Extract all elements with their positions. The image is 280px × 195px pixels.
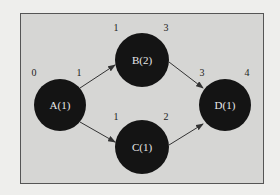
node-c-start: 1: [114, 111, 119, 122]
node-d-start: 3: [200, 67, 205, 78]
node-a-label: A(1): [50, 99, 71, 112]
edge-c-d: [169, 124, 203, 145]
node-d: D(1) 3 4: [199, 67, 251, 131]
node-a-start: 0: [32, 67, 37, 78]
network-diagram: A(1) 0 1 B(2) 1 3 C(1) 1 2 D(1) 3 4: [0, 0, 280, 195]
edge-b-d: [169, 62, 203, 88]
node-b-finish: 3: [164, 22, 169, 33]
edge-a-b: [80, 65, 115, 88]
edge-a-c: [80, 122, 115, 142]
node-b-start: 1: [114, 22, 119, 33]
node-b: B(2) 1 3: [114, 22, 170, 87]
node-c: C(1) 1 2: [114, 111, 170, 174]
node-c-finish: 2: [164, 111, 169, 122]
node-d-finish: 4: [245, 67, 250, 78]
node-c-label: C(1): [132, 141, 153, 154]
node-a-finish: 1: [77, 67, 82, 78]
node-b-label: B(2): [132, 54, 153, 67]
node-d-label: D(1): [215, 99, 236, 112]
node-a: A(1) 0 1: [32, 67, 87, 131]
